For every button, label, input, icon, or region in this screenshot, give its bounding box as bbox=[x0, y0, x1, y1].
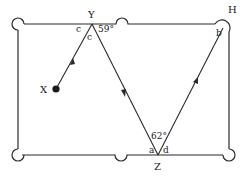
arrow-y-to-z-icon bbox=[121, 89, 126, 97]
pocket-top-left bbox=[12, 18, 24, 30]
angle-c-left: c bbox=[76, 24, 81, 34]
ball-x bbox=[52, 85, 59, 92]
label-y: Y bbox=[87, 9, 95, 20]
label-h: H bbox=[228, 4, 237, 15]
label-z: Z bbox=[154, 161, 161, 172]
top-rail bbox=[24, 18, 215, 24]
arrowheads bbox=[70, 58, 198, 97]
path-z-to-h bbox=[158, 28, 223, 155]
angle-y-59: 59° bbox=[98, 24, 114, 34]
angle-c-right: c bbox=[87, 32, 92, 42]
angle-b: b bbox=[216, 28, 222, 38]
label-x: X bbox=[40, 84, 48, 95]
pocket-bottom-right bbox=[223, 149, 235, 161]
billiard-diagram: Y X Z H c c 59° b 62° a d bbox=[0, 0, 247, 178]
angle-z-62: 62° bbox=[151, 131, 167, 141]
ball-path bbox=[56, 24, 223, 155]
angle-a: a bbox=[149, 145, 155, 155]
angle-d: d bbox=[163, 145, 169, 155]
bottom-rail bbox=[22, 155, 223, 161]
arrow-z-to-h-icon bbox=[193, 77, 198, 84]
